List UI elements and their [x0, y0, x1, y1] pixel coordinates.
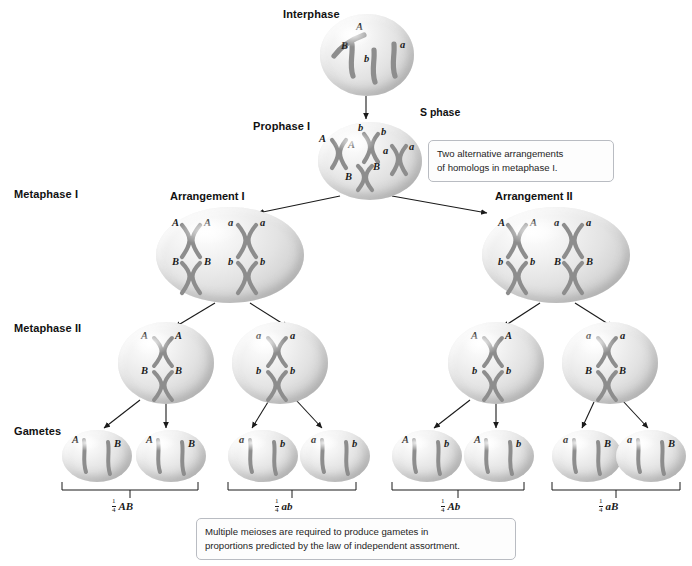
- gamete7-label-left: a: [563, 435, 568, 446]
- m1a1-top-1: A: [172, 218, 179, 229]
- fraction-quarter-2: 1 4: [275, 498, 279, 514]
- chromosome-B-right: [193, 263, 201, 293]
- bracket-proportion-ab: [62, 482, 198, 498]
- chromatid-top-right: [279, 338, 287, 366]
- chromosome-left: [84, 440, 86, 472]
- m2c3-bot-1: b: [472, 366, 477, 377]
- chromosome-left: [414, 440, 416, 472]
- chromatid-bottom-left: [598, 372, 606, 400]
- m2c2-top-1: a: [256, 331, 261, 342]
- m1a2-top-4: a: [586, 218, 591, 229]
- chromatid-bottom-left: [268, 372, 276, 400]
- gamete8-label-left: a: [627, 435, 632, 446]
- chromosome-a-right: [400, 146, 406, 174]
- metaphase-ii-cell-1: A A B B: [118, 322, 214, 404]
- interphase-cell: A B b a: [320, 14, 414, 96]
- metaphase-i-cell-arrangement-2: A A a a b b B B: [482, 207, 630, 303]
- callout-gamete-proportions: Multiple meioses are required to produce…: [196, 518, 516, 560]
- interphase-label-b: b: [364, 54, 369, 65]
- chromosome-left: [250, 440, 252, 472]
- gamete3-label-left: a: [239, 435, 244, 446]
- chromatid-top-left: [598, 338, 606, 366]
- metaphase-ii-cell-2: a a b b: [232, 322, 328, 404]
- chromatid-top-right: [165, 338, 173, 366]
- m2c3-top-1: A: [471, 331, 478, 342]
- chromosome-A-left: [508, 225, 516, 257]
- chromosome-left: [574, 440, 576, 472]
- gamete-cell-1: A B: [62, 430, 132, 482]
- gamete8-label-right: B: [668, 439, 675, 450]
- fraction-quarter-3: 1 4: [441, 498, 445, 514]
- stage-label-metaphase-ii: Metaphase II: [14, 322, 81, 334]
- metaphase-ii-chromosomes-2: [232, 322, 328, 404]
- prophase-label-b-1: b: [358, 123, 363, 134]
- chromosome-right: [662, 442, 664, 474]
- callout-metaphase-line-2: of homologs in metaphase I.: [437, 161, 605, 175]
- chromosome-B-left: [182, 263, 190, 293]
- gamete1-label-right: B: [114, 439, 121, 450]
- bracket-proportion-Ab: [392, 482, 524, 498]
- chromosome-b-right: [519, 263, 527, 293]
- fraction-quarter-1: 1 4: [112, 498, 116, 514]
- chromatid-bottom-right: [279, 372, 287, 400]
- chromosome-B-right: [575, 263, 583, 293]
- metaphase-ii-chromosomes-1: [118, 322, 214, 404]
- proportion-Ab: 1 4 Ab: [441, 498, 460, 514]
- gamete-cell-2: A B: [136, 430, 206, 482]
- prophase-label-a-1: a: [383, 146, 388, 157]
- chromosome-right: [598, 442, 600, 474]
- gamete2-label-left: A: [146, 435, 153, 446]
- chromosome-B-right: [366, 166, 372, 190]
- bracket-proportion-ab-lower: [228, 482, 356, 498]
- metaphase-i-cell-arrangement-1: A A a a B B b b: [156, 207, 304, 303]
- arrow-mii1-to-gamete-1: [104, 400, 140, 428]
- chromosome-left: [486, 440, 488, 472]
- fraction-numerator: 1: [112, 498, 116, 506]
- chromosome-B-left: [564, 263, 572, 293]
- m1a1-top-2: A: [204, 218, 211, 229]
- genotype-label-Ab: Ab: [448, 500, 461, 512]
- chromatid-top-right: [609, 338, 617, 366]
- chromosome-right: [510, 442, 512, 474]
- fraction-numerator: 1: [599, 498, 603, 506]
- prophase-label-a-2: a: [409, 142, 414, 153]
- gamete-cell-8: a B: [616, 430, 686, 482]
- fraction-quarter-4: 1 4: [599, 498, 603, 514]
- gamete3-label-right: b: [280, 439, 285, 450]
- m2c1-top-2: A: [175, 331, 182, 342]
- prophase-i-chromosomes: [318, 122, 422, 200]
- chromatid-bottom-left: [154, 372, 162, 400]
- genotype-label-aB: aB: [606, 500, 619, 512]
- chromosome-A-right: [193, 225, 201, 257]
- prophase-i-cell: A A b b B B a a: [318, 122, 422, 200]
- chromosome-A-right: [519, 225, 527, 257]
- arrow-mii2-to-gamete-3: [252, 402, 268, 428]
- m1a1-top-4: a: [260, 218, 265, 229]
- meiosis-independent-assortment-diagram: Interphase Prophase I Metaphase I Metaph…: [0, 0, 692, 566]
- chromosome-right: [438, 442, 440, 474]
- gamete5-label-left: A: [402, 435, 409, 446]
- chromosome-A-left: [182, 225, 190, 257]
- arrow-mii4-to-gamete-8: [622, 400, 648, 428]
- interphase-label-B: B: [341, 41, 348, 52]
- interphase-label-A: A: [356, 22, 363, 33]
- gamete6-label-right: b: [516, 439, 521, 450]
- proportion-ab-lower: 1 4 ab: [275, 498, 293, 514]
- arrow-mii3-to-gamete-5: [434, 400, 470, 428]
- m1a2-top-2: A: [530, 218, 537, 229]
- m1a1-bot-4: b: [260, 257, 265, 268]
- m1a2-bot-4: B: [586, 257, 593, 268]
- chromosome-right: [274, 442, 276, 474]
- proportion-ab: 1 4 AB: [112, 498, 133, 514]
- chromatid-top-left: [268, 338, 276, 366]
- stage-label-gametes: Gametes: [14, 425, 61, 437]
- gamete4-label-left: a: [311, 435, 316, 446]
- chromatid-bottom-right: [165, 372, 173, 400]
- m2c1-top-1: A: [141, 331, 148, 342]
- m1a2-top-3: a: [554, 218, 559, 229]
- chromosome-b-left: [238, 263, 246, 293]
- m2c1-bot-2: B: [175, 366, 182, 377]
- chromosome-a-right: [575, 225, 583, 257]
- chromosome-a-left: [392, 146, 398, 174]
- chromosome-right: [182, 442, 184, 474]
